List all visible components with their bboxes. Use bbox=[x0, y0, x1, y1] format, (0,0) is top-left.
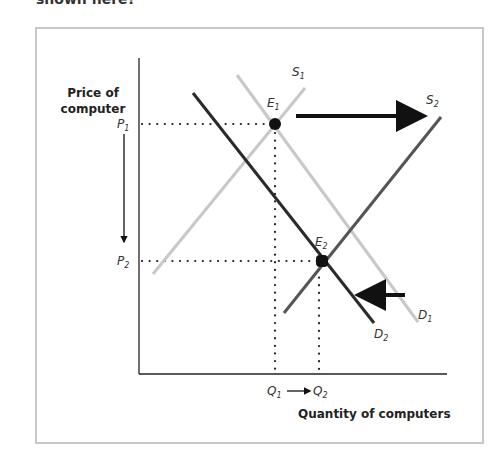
label-e2: E2 bbox=[315, 235, 328, 251]
supply-curve-s1 bbox=[153, 88, 305, 274]
supply-demand-chart: Price ofcomputer Quantity of computers S… bbox=[0, 0, 497, 464]
label-d2: D2 bbox=[374, 327, 388, 343]
dotted-guides bbox=[142, 124, 319, 371]
supply-curve-s2 bbox=[284, 117, 441, 313]
label-e1: E1 bbox=[267, 96, 280, 112]
demand-curve-d1 bbox=[237, 75, 418, 322]
label-s1: S1 bbox=[292, 65, 305, 81]
label-d1: D1 bbox=[418, 308, 432, 324]
demand-curve-d2 bbox=[193, 93, 374, 323]
x-axis-title: Quantity of computers bbox=[298, 407, 451, 421]
tick-p1: P1 bbox=[117, 117, 129, 133]
equilibrium-point-e1 bbox=[269, 118, 281, 130]
label-s2: S2 bbox=[426, 93, 439, 109]
tick-q2: Q2 bbox=[313, 384, 328, 400]
tick-q1: Q1 bbox=[267, 384, 282, 400]
tick-p2: P2 bbox=[117, 254, 129, 270]
y-axis-title: Price ofcomputer bbox=[61, 86, 126, 116]
equilibrium-point-e2 bbox=[316, 255, 328, 267]
